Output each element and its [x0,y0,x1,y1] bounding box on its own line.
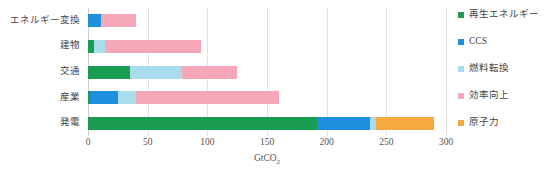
legend-swatch-icon [458,39,464,45]
x-axis-ticks: 050100150200250300 [88,138,446,152]
legend-divider [446,8,447,136]
legend-label: 効率向上 [469,91,509,101]
y-axis-label-4: 発電 [60,118,80,128]
x-axis-title-subscript: 2 [277,158,281,166]
bar-row [88,66,446,79]
y-axis-label-1: 建物 [60,41,80,51]
legend-swatch-icon [458,66,464,72]
bar-segment-CCS[interactable] [90,91,117,104]
legend-swatch-icon [458,120,464,126]
chart-legend: 再生エネルギーCCS燃料転換効率向上原子力 [458,10,546,140]
x-tick-0: 0 [86,138,91,148]
legend-item-燃料転換[interactable]: 燃料転換 [458,64,509,74]
legend-label: 燃料転換 [469,64,509,74]
y-axis-labels: エネルギー変換建物交通産業発電 [0,8,84,136]
y-axis-label-2: 交通 [60,67,80,77]
bar-segment-再生エネルギー[interactable] [88,117,317,130]
bar-series-container [88,8,446,136]
legend-item-効率向上[interactable]: 効率向上 [458,91,509,101]
bar-segment-燃料転換[interactable] [118,91,136,104]
bar-segment-CCS[interactable] [317,117,370,130]
x-tick-250: 250 [379,138,393,148]
legend-swatch-icon [458,12,464,18]
bar-segment-原子力[interactable] [376,117,434,130]
legend-item-CCS[interactable]: CCS [458,37,487,47]
legend-label: CCS [469,37,487,47]
legend-item-再生エネルギー[interactable]: 再生エネルギー [458,10,539,20]
bar-row [88,91,446,104]
legend-label: 原子力 [469,118,499,128]
legend-swatch-icon [458,93,464,99]
x-tick-100: 100 [200,138,214,148]
x-axis-title-text: GtCO [254,153,277,163]
bar-segment-効率向上[interactable] [105,40,202,53]
legend-label: 再生エネルギー [469,10,539,20]
x-tick-150: 150 [260,138,274,148]
bar-segment-効率向上[interactable] [136,91,279,104]
bar-segment-効率向上[interactable] [182,66,237,79]
legend-item-原子力[interactable]: 原子力 [458,118,499,128]
chart-root: エネルギー変換建物交通産業発電 050100150200250300 GtCO2… [0,0,547,175]
bar-segment-効率向上[interactable] [101,14,136,27]
bar-row [88,117,446,130]
bar-row [88,40,446,53]
bar-segment-燃料転換[interactable] [130,66,183,79]
x-tick-50: 50 [143,138,153,148]
x-tick-200: 200 [320,138,334,148]
bar-row [88,14,446,27]
y-axis-label-3: 産業 [60,93,80,103]
bar-segment-CCS[interactable] [88,14,101,27]
bar-segment-燃料転換[interactable] [94,40,105,53]
x-axis-title: GtCO2 [88,153,446,166]
y-axis-label-0: エネルギー変換 [10,16,80,26]
x-tick-300: 300 [439,138,453,148]
bar-segment-再生エネルギー[interactable] [88,66,130,79]
